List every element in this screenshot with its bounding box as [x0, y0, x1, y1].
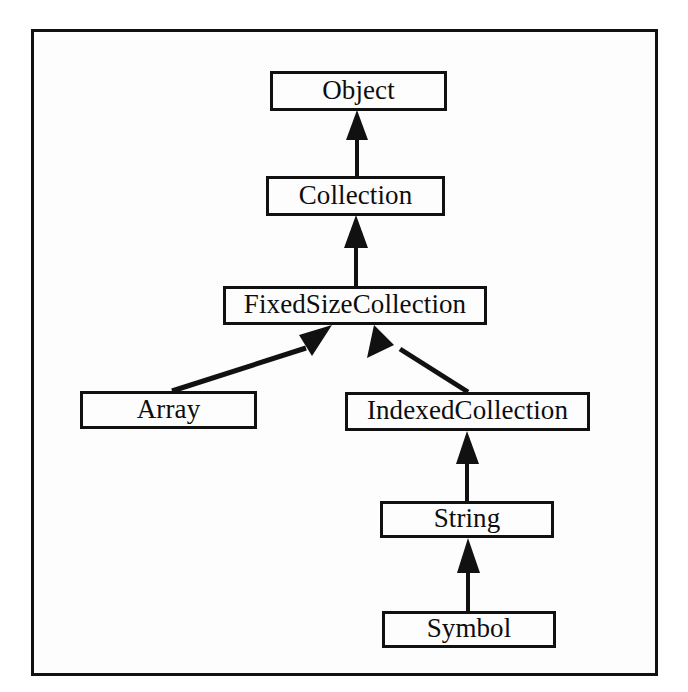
class-node-label: Symbol [427, 615, 512, 642]
class-node-label: Array [137, 396, 200, 423]
class-node-fixedsizecollection[interactable]: FixedSizeCollection [223, 286, 487, 325]
class-node-label: String [434, 505, 501, 532]
class-node-indexedcollection[interactable]: IndexedCollection [345, 392, 590, 431]
class-node-label: FixedSizeCollection [244, 291, 466, 318]
class-node-string[interactable]: String [380, 501, 554, 538]
class-node-label: Object [322, 77, 395, 104]
diagram-frame [31, 29, 658, 676]
class-node-symbol[interactable]: Symbol [382, 611, 556, 648]
class-node-label: IndexedCollection [367, 397, 568, 424]
class-node-label: Collection [299, 182, 412, 209]
class-node-object[interactable]: Object [270, 71, 447, 111]
class-node-array[interactable]: Array [80, 391, 257, 429]
class-node-collection[interactable]: Collection [266, 176, 445, 216]
class-diagram-canvas: Object Collection FixedSizeCollection Ar… [0, 0, 688, 692]
